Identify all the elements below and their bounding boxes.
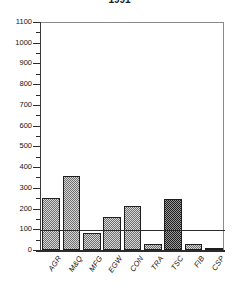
y-tick-minor xyxy=(36,136,40,137)
y-tick-minor xyxy=(36,74,40,75)
y-tick-minor xyxy=(36,157,40,158)
x-tick-label-tra: TRA xyxy=(149,254,165,272)
bar-egw xyxy=(103,217,121,250)
y-tick-minor xyxy=(36,198,40,199)
y-tick-label: 400 xyxy=(2,163,32,170)
y-tick-label: 500 xyxy=(2,142,32,149)
y-tick-minor xyxy=(36,240,40,241)
y-tick-minor xyxy=(36,219,40,220)
x-tick-label-tsc: TSC xyxy=(169,254,185,272)
bar-mandq xyxy=(63,176,81,250)
x-tick-label-egw: EGW xyxy=(107,254,125,274)
y-tick xyxy=(33,146,40,147)
y-tick xyxy=(33,43,40,44)
y-tick-label: 1100 xyxy=(2,18,32,25)
x-tick-label-fib: FIB xyxy=(191,254,205,269)
x-tick-label-con: CON xyxy=(128,254,145,273)
y-tick xyxy=(33,84,40,85)
y-tick-label: 1000 xyxy=(2,39,32,46)
y-tick xyxy=(33,188,40,189)
y-tick xyxy=(33,22,40,23)
x-tick-label-csp: CSP xyxy=(210,254,227,272)
y-tick-label: 300 xyxy=(2,184,32,191)
reference-line xyxy=(40,230,225,231)
chart-title: 1991 xyxy=(0,0,239,5)
bar-fib xyxy=(185,244,203,250)
y-tick xyxy=(33,167,40,168)
bar-csp xyxy=(205,248,223,250)
y-tick-label: 200 xyxy=(2,205,32,212)
chart-root: 1991 11001000900800700600500400300200100… xyxy=(0,0,239,292)
x-tick-label-mandq: M&Q xyxy=(66,254,84,274)
x-tick-label-mfg: MFG xyxy=(87,254,104,273)
y-tick xyxy=(33,105,40,106)
bar-series xyxy=(41,22,224,250)
bar-tsc xyxy=(164,199,182,250)
y-tick xyxy=(33,63,40,64)
y-tick-label: 100 xyxy=(2,225,32,232)
bar-agr xyxy=(42,198,60,250)
bar-mfg xyxy=(83,233,101,250)
y-tick xyxy=(33,126,40,127)
bar-con xyxy=(124,206,142,250)
y-tick-minor xyxy=(36,177,40,178)
y-tick xyxy=(33,229,40,230)
y-tick xyxy=(33,250,40,251)
y-tick-label: 800 xyxy=(2,80,32,87)
x-tick-label-agr: AGR xyxy=(46,254,63,273)
y-tick-minor xyxy=(36,32,40,33)
y-axis-labels: 110010009008007006005004003002001000 xyxy=(0,0,32,292)
y-tick-minor xyxy=(36,95,40,96)
x-axis-labels: AGRM&QMFGEGWCONTRATSCFIBCSP xyxy=(41,252,224,292)
y-tick-label: 900 xyxy=(2,59,32,66)
y-tick-label: 700 xyxy=(2,101,32,108)
y-tick-label: 0 xyxy=(2,246,32,253)
y-tick-minor xyxy=(36,115,40,116)
bar-tra xyxy=(144,244,162,250)
y-tick xyxy=(33,209,40,210)
y-tick-minor xyxy=(36,53,40,54)
y-tick-label: 600 xyxy=(2,122,32,129)
